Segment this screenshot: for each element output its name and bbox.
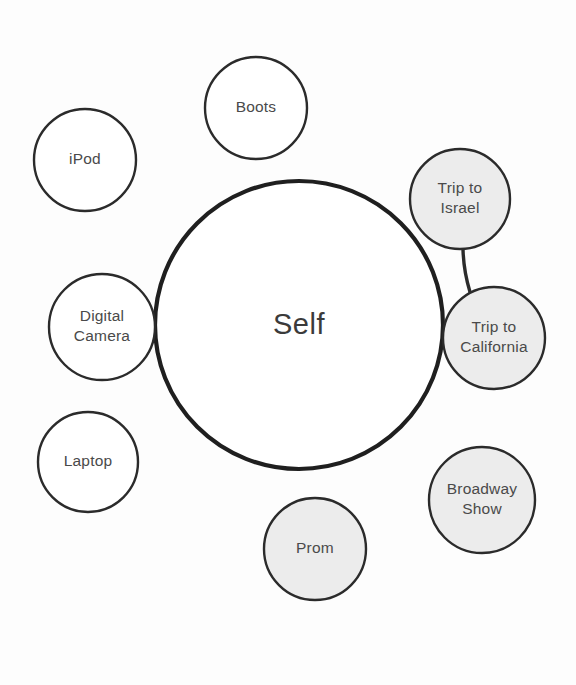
node-trip-to-israel[interactable]: Trip toIsrael xyxy=(410,149,510,249)
diagram-canvas: Self iPodBootsTrip toIsraelTrip toCalifo… xyxy=(0,0,576,685)
node-label-ipod: iPod xyxy=(69,150,101,167)
center-node-layer: Self xyxy=(155,181,443,469)
connector-layer xyxy=(463,249,470,292)
node-prom[interactable]: Prom xyxy=(264,498,366,600)
node-digital-camera[interactable]: DigitalCamera xyxy=(49,274,155,380)
concept-map-svg: Self iPodBootsTrip toIsraelTrip toCalifo… xyxy=(0,0,576,685)
node-laptop[interactable]: Laptop xyxy=(38,412,138,512)
node-trip-to-california[interactable]: Trip toCalifornia xyxy=(443,287,545,389)
node-label-boots: Boots xyxy=(236,98,277,115)
node-label-laptop: Laptop xyxy=(64,452,113,469)
connector-israel-to-california xyxy=(463,249,470,292)
node-label-prom: Prom xyxy=(296,539,334,556)
node-boots[interactable]: Boots xyxy=(205,57,307,159)
center-node-self[interactable]: Self xyxy=(155,181,443,469)
node-broadway-show[interactable]: BroadwayShow xyxy=(429,447,535,553)
center-node-label: Self xyxy=(273,308,325,340)
node-ipod[interactable]: iPod xyxy=(34,109,136,211)
